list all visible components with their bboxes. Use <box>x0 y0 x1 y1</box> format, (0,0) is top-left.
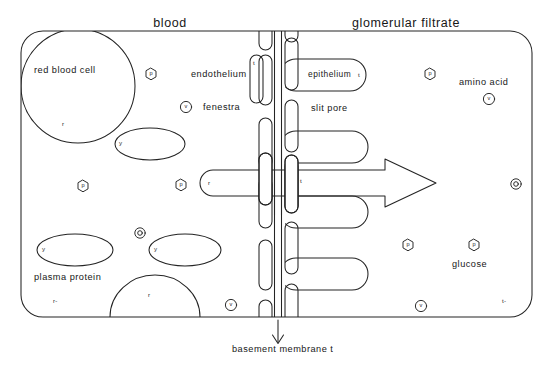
endothelium-cell <box>250 55 263 103</box>
molecule-symbol: v <box>488 96 491 102</box>
figure-canvas: blood glomerular filtrate red blood cell… <box>0 0 553 368</box>
molecule-ring-e <box>511 179 521 189</box>
molecule-ring-e <box>138 231 143 236</box>
marker-membrane: t <box>300 178 302 184</box>
label-red-blood-cell: red blood cell <box>34 66 96 75</box>
molecule-glyphs <box>78 68 521 311</box>
marker-bottom-left: r- <box>53 298 58 304</box>
label-slit-pore: slit pore <box>311 104 348 113</box>
molecule-symbol: p <box>179 182 182 188</box>
label-amino-acid: amino acid <box>459 78 508 87</box>
plasma-protein-shape <box>149 234 221 266</box>
plasma-protein-shape <box>115 128 185 160</box>
molecule-symbol: p <box>81 183 84 189</box>
marker-rbc: r <box>62 121 64 127</box>
label-plasma-protein: plasma protein <box>34 273 101 282</box>
title-glomerular-filtrate: glomerular filtrate <box>352 17 460 30</box>
molecule-ring-e <box>514 182 519 187</box>
molecule-symbol: p <box>406 242 409 248</box>
marker-dome: r <box>148 292 150 298</box>
basement-membrane-pointer <box>273 320 284 344</box>
marker-endothelium-cell: t <box>253 60 255 66</box>
molecule-symbol: p <box>472 242 475 248</box>
molecule-symbol: p <box>428 71 431 77</box>
label-basement-membrane: basement membrane t <box>232 345 333 354</box>
molecule-symbol: v <box>230 302 233 308</box>
marker-bottom-right: t- <box>502 298 506 304</box>
marker-plasma-protein: y <box>154 246 157 252</box>
molecule-symbol: v <box>420 303 423 309</box>
marker-epithelium-cell: t <box>358 72 360 78</box>
marker-plasma-protein: y <box>42 246 45 252</box>
filtration-arrow <box>200 159 436 207</box>
marker-arrow: r <box>208 180 210 186</box>
red-blood-cell-dome <box>110 275 200 317</box>
red-blood-cell-shape <box>21 29 135 143</box>
molecule-ring-e <box>135 228 145 238</box>
molecule-symbol: v <box>185 104 188 110</box>
label-epithelium: epithelium <box>308 70 351 78</box>
title-blood: blood <box>153 17 187 30</box>
molecule-symbol: p <box>149 71 152 77</box>
label-fenestra: fenestra <box>203 103 240 112</box>
basement-membrane <box>275 31 282 329</box>
label-endothelium: endothelium <box>191 70 247 79</box>
label-glucose: glucose <box>452 260 487 269</box>
marker-plasma-protein: y <box>119 140 122 146</box>
plasma-protein-shape <box>37 234 113 266</box>
